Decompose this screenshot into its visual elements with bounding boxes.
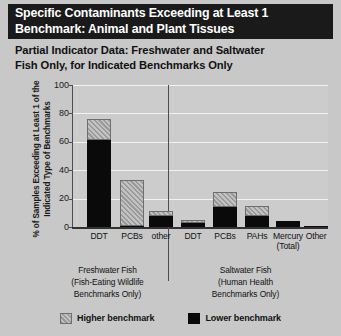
y-axis-title: % of Samples Exceeding at Least 1 of the… [31,64,53,254]
legend-item-higher: Higher benchmark [60,313,154,324]
x-axis-labels: DDTPCBsotherDDTPCBsPAHsMercury(Total)Oth… [73,231,328,257]
figure-title: Specific Contaminants Exceeding at Least… [8,6,268,37]
group-caption-saltwater-line3: Benchmarks Only) [178,289,313,301]
bar-segment-lower-0 [87,140,111,227]
chart-figure: Specific Contaminants Exceeding at Least… [0,0,341,336]
group-caption-saltwater-line2: (Human Health [178,277,313,289]
legend-item-lower: Lower benchmark [188,313,281,324]
group-caption-saltwater-line1: Saltwater Fish [178,265,313,277]
bar-segment-higher-0 [87,119,111,140]
group-caption-freshwater-line1: Freshwater Fish [55,265,160,277]
figure-header: Specific Contaminants Exceeding at Least… [8,4,333,39]
group-caption-freshwater-line2: (Fish-Eating Wildlife [55,277,160,289]
bar-segment-lower-5 [245,216,269,227]
bar-segment-lower-2 [149,216,173,227]
x-tick-label-7-line1: Other [290,231,341,241]
x-tick-label-6-line2: (Total) [262,241,314,251]
figure-subtitle-line1: Partial Indicator Data: Freshwater and S… [15,43,335,58]
bar-segment-higher-1 [120,180,144,225]
legend-swatch-higher-icon [60,313,72,324]
legend-label-higher: Higher benchmark [77,313,154,323]
x-axis-line [72,227,328,229]
bar-5 [245,206,269,227]
bar-2 [149,211,173,227]
bar-segment-higher-4 [213,192,237,208]
bar-segment-lower-1 [120,226,144,227]
bar-segment-lower-6 [276,221,300,227]
figure-title-line2: Benchmark: Animal and Plant Tissues [15,22,268,38]
bar-1 [120,180,144,227]
bar-segment-lower-7 [304,226,328,227]
figure-title-line1: Specific Contaminants Exceeding at Least… [15,6,268,22]
bar-segment-lower-3 [181,223,205,227]
chart-legend: Higher benchmark Lower benchmark [60,310,290,326]
bar-segment-lower-4 [213,207,237,227]
group-caption-freshwater: Freshwater Fish (Fish-Eating Wildlife Be… [55,265,160,301]
group-caption-freshwater-line3: Benchmarks Only) [55,289,160,301]
x-tick-label-7: Other [290,231,341,241]
bar-6 [276,221,300,227]
bar-4 [213,192,237,228]
y-axis-title-host: % of Samples Exceeding at Least 1 of the… [14,60,70,250]
legend-swatch-lower-icon [188,313,200,324]
bar-0 [87,119,111,227]
legend-label-lower: Lower benchmark [205,313,281,323]
bar-3 [181,220,205,227]
bar-7 [304,226,328,227]
group-caption-saltwater: Saltwater Fish (Human Health Benchmarks … [178,265,313,301]
bar-segment-higher-5 [245,206,269,216]
bar-series-container [73,85,328,227]
